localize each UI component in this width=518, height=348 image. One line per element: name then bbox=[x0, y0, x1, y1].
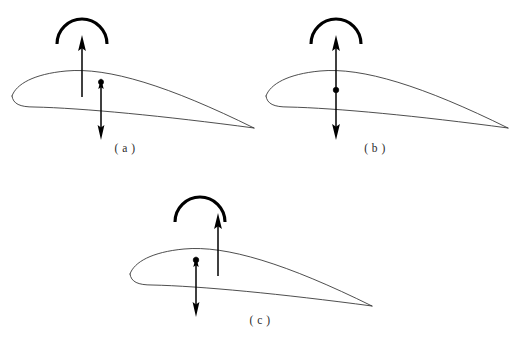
panel-c bbox=[122, 182, 384, 322]
airfoil-diagram-figure: ( a ) ( b ) bbox=[0, 0, 518, 348]
panel-a-drawing bbox=[4, 4, 266, 144]
panel-b-caption: ( b ) bbox=[315, 142, 435, 154]
lift-arrow-a bbox=[78, 35, 86, 97]
aerodynamic-center-dot-icon bbox=[193, 257, 199, 263]
panel-a bbox=[4, 4, 266, 144]
airfoil-upper-surface bbox=[266, 70, 508, 128]
panel-b-drawing bbox=[258, 4, 516, 144]
panel-c-caption: ( c ) bbox=[200, 314, 320, 326]
airfoil-shape-c bbox=[130, 248, 372, 306]
aerodynamic-center-dot-icon bbox=[98, 79, 103, 84]
airfoil-lower-surface bbox=[130, 274, 372, 306]
airfoil-upper-surface bbox=[130, 248, 372, 306]
airfoil-shape-b bbox=[266, 70, 508, 128]
lift-weight-arrow-b bbox=[332, 35, 340, 140]
panel-b bbox=[258, 4, 516, 144]
panel-c-drawing bbox=[122, 182, 384, 322]
airfoil-upper-surface bbox=[12, 70, 254, 128]
center-force-a bbox=[98, 78, 105, 140]
airfoil-lower-surface bbox=[12, 96, 254, 128]
airfoil-shape-a bbox=[12, 70, 254, 128]
aerodynamic-center-dot-icon bbox=[333, 87, 339, 93]
panel-a-caption: ( a ) bbox=[65, 142, 185, 154]
airfoil-lower-surface bbox=[266, 96, 508, 128]
lift-arrow-c bbox=[214, 213, 222, 276]
